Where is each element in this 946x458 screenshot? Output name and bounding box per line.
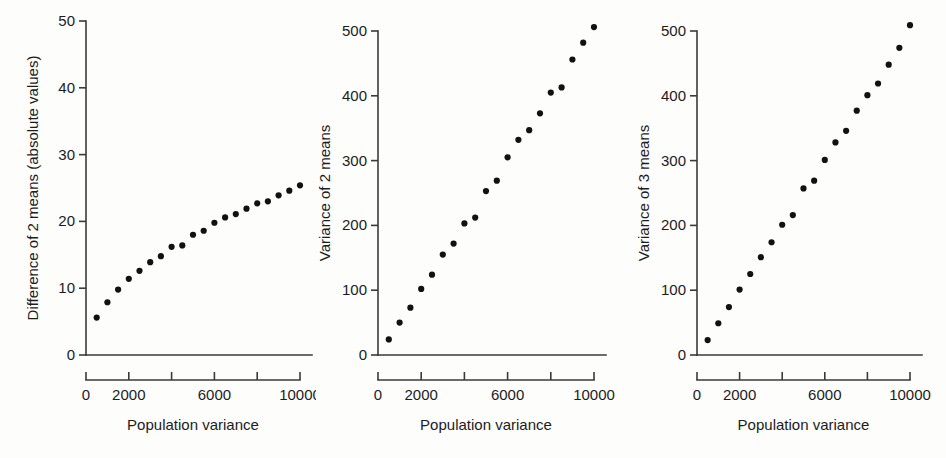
data-point	[580, 40, 586, 46]
data-point	[233, 211, 239, 217]
data-series	[705, 22, 914, 343]
data-point	[875, 80, 881, 86]
data-point	[726, 304, 732, 310]
data-point	[386, 336, 392, 342]
data-series	[94, 182, 304, 320]
x-tick-label: 10000	[889, 386, 931, 403]
data-point	[758, 254, 764, 260]
y-axis-title: Variance of 3 means	[635, 125, 652, 261]
data-point	[243, 206, 249, 212]
data-point	[461, 220, 467, 226]
data-point	[569, 56, 575, 62]
data-series	[386, 24, 597, 343]
data-point	[407, 305, 413, 311]
data-point	[896, 45, 902, 51]
x-tick-label: 2000	[112, 386, 145, 403]
data-point	[515, 137, 521, 143]
data-point	[286, 188, 292, 194]
x-axis-title: Population variance	[738, 416, 870, 433]
y-tick-label: 500	[342, 22, 367, 39]
y-axis: 01020304050	[58, 12, 86, 363]
data-point	[429, 272, 435, 278]
data-point	[418, 286, 424, 292]
y-tick-label: 400	[342, 87, 367, 104]
data-point	[907, 22, 913, 28]
data-point	[297, 182, 303, 188]
y-tick-label: 400	[661, 87, 686, 104]
y-tick-label: 200	[342, 216, 367, 233]
x-tick-label: 10000	[573, 386, 615, 403]
y-tick-label: 200	[661, 216, 686, 233]
chart-panel-difference-of-2-means: 01020304050Difference of 2 means (absolu…	[0, 0, 316, 458]
plot-area: 0100200300400500Variance of 2 means02000…	[316, 0, 632, 458]
y-tick-label: 300	[342, 152, 367, 169]
data-point	[737, 286, 743, 292]
data-point	[211, 220, 217, 226]
x-axis: 02000600010000	[693, 372, 931, 403]
y-tick-label: 10	[58, 279, 75, 296]
x-tick-label: 2000	[723, 386, 756, 403]
data-point	[811, 178, 817, 184]
y-tick-label: 50	[58, 12, 75, 29]
y-tick-label: 20	[58, 212, 75, 229]
data-point	[537, 110, 543, 116]
y-tick-label: 30	[58, 146, 75, 163]
data-point	[104, 299, 110, 305]
data-point	[254, 200, 260, 206]
y-tick-label: 0	[359, 346, 367, 363]
data-point	[747, 271, 753, 277]
data-point	[715, 320, 721, 326]
y-tick-label: 100	[661, 281, 686, 298]
data-point	[169, 244, 175, 250]
data-point	[591, 24, 597, 30]
data-point	[201, 228, 207, 234]
y-tick-label: 300	[661, 152, 686, 169]
data-point	[397, 320, 403, 326]
figure-scatter-panels: 01020304050Difference of 2 means (absolu…	[0, 0, 946, 458]
data-point	[864, 92, 870, 98]
y-tick-label: 0	[67, 346, 75, 363]
chart-panel-variance-of-3-means: 0100200300400500Variance of 3 means02000…	[632, 0, 946, 458]
data-point	[886, 62, 892, 68]
data-point	[526, 127, 532, 133]
y-axis-title: Variance of 2 means	[316, 125, 333, 261]
data-point	[505, 154, 511, 160]
y-tick-label: 100	[342, 281, 367, 298]
data-point	[854, 108, 860, 114]
data-point	[190, 232, 196, 238]
data-point	[822, 157, 828, 163]
data-point	[800, 185, 806, 191]
data-point	[126, 276, 132, 282]
y-tick-label: 500	[661, 22, 686, 39]
data-point	[179, 242, 185, 248]
y-axis-title: Difference of 2 means (absolute values)	[24, 56, 41, 321]
x-tick-label: 0	[82, 386, 90, 403]
x-axis-title: Population variance	[127, 416, 259, 433]
data-point	[94, 314, 100, 320]
x-tick-label: 0	[374, 386, 382, 403]
data-point	[222, 214, 228, 220]
data-point	[483, 188, 489, 194]
x-tick-label: 2000	[405, 386, 438, 403]
data-point	[472, 215, 478, 221]
data-point	[136, 268, 142, 274]
x-tick-label: 6000	[491, 386, 524, 403]
data-point	[548, 89, 554, 95]
x-tick-label: 0	[693, 386, 701, 403]
x-tick-label: 6000	[198, 386, 231, 403]
x-axis: 02000600010000	[374, 372, 615, 403]
y-axis: 0100200300400500	[661, 22, 697, 363]
y-tick-label: 0	[678, 346, 686, 363]
data-point	[494, 178, 500, 184]
data-point	[705, 337, 711, 343]
data-point	[115, 286, 121, 292]
plot-area: 01020304050Difference of 2 means (absolu…	[0, 0, 316, 458]
y-tick-label: 40	[58, 79, 75, 96]
x-tick-label: 10000	[279, 386, 316, 403]
chart-panel-variance-of-2-means: 0100200300400500Variance of 2 means02000…	[316, 0, 632, 458]
data-point	[832, 139, 838, 145]
x-axis-title: Population variance	[420, 416, 552, 433]
data-point	[265, 198, 271, 204]
data-point	[790, 212, 796, 218]
data-point	[147, 259, 153, 265]
